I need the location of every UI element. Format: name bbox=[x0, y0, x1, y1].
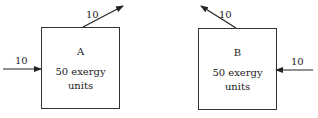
system-a-name: A bbox=[41, 46, 120, 58]
system-b-exergy-1: 50 exergy bbox=[198, 67, 277, 79]
system-a-exergy-2: units bbox=[41, 80, 120, 92]
system-b-exergy-2: units bbox=[198, 81, 277, 93]
system-a-exergy-1: 50 exergy bbox=[41, 66, 120, 78]
system-a-input-value: 10 bbox=[15, 55, 28, 66]
system-b-output-value: 10 bbox=[219, 9, 232, 20]
system-b-name: B bbox=[198, 47, 277, 59]
system-b-input-value: 10 bbox=[291, 56, 304, 67]
system-a-output-value: 10 bbox=[86, 9, 99, 20]
